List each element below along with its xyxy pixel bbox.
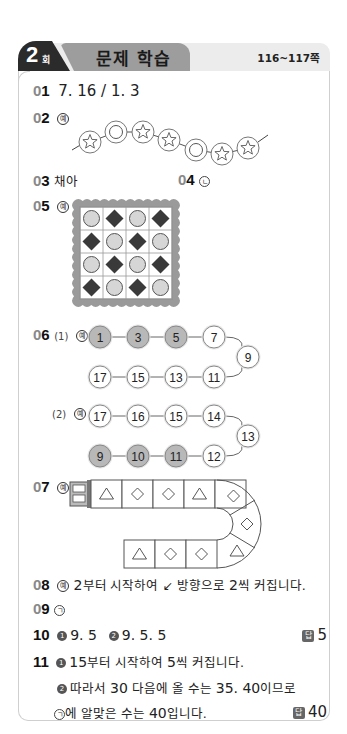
answer-text: 7. 16 / 1. 3 [58, 82, 139, 100]
bead-string-diagram [68, 110, 278, 170]
circle-shape [130, 211, 146, 227]
number-bead: 14 [202, 404, 227, 429]
question-05: 05 예 [33, 197, 69, 214]
svg-text:11: 11 [170, 450, 183, 464]
svg-text:9: 9 [245, 351, 252, 365]
svg-text:13: 13 [241, 430, 255, 444]
svg-text:10: 10 [131, 450, 145, 464]
svg-text:15: 15 [169, 410, 183, 424]
svg-text:5: 5 [173, 331, 180, 345]
question-09: 09 ㄱ [33, 600, 65, 617]
circle-bead [185, 139, 207, 161]
circle-bead [105, 121, 127, 143]
number-bead: 5 [164, 325, 189, 350]
example-mark: 예 [74, 408, 86, 420]
answer-symbol: ㄱ [54, 605, 65, 616]
answer-mark: 답 [293, 707, 305, 719]
question-03: 03 채아 [33, 171, 78, 190]
number-bead: 16 [126, 404, 151, 429]
question-04: 04 ㄴ [178, 171, 210, 188]
step-bullet: 1 [56, 658, 66, 668]
round-suffix: 회 [42, 53, 50, 66]
number-bead: 17 [88, 404, 113, 429]
belt-pattern-diagram [68, 478, 268, 570]
page-title: 문제 학습 [96, 45, 171, 70]
number-bead: 1 [88, 325, 113, 350]
part-label: (2) [52, 409, 66, 420]
circle-shape [84, 257, 100, 273]
answer-text: 채아 [54, 174, 78, 189]
svg-text:16: 16 [131, 410, 145, 424]
svg-text:17: 17 [93, 371, 107, 385]
number-bead: 17 [88, 365, 113, 390]
star-bead [132, 121, 154, 143]
example-mark: 예 [57, 580, 69, 592]
svg-text:3: 3 [135, 331, 142, 345]
question-11-step3: ㄱ에 알맞은 수는 40입니다. [54, 703, 207, 722]
question-number: 07 [33, 478, 50, 495]
number-bead: 15 [164, 404, 189, 429]
question-08: 08 예 2부터 시작하여 ↙ 방향으로 2씩 커집니다. [33, 575, 306, 594]
star-bead [237, 137, 259, 159]
circle-shape [107, 280, 123, 296]
number-bead: 7 [202, 325, 227, 350]
svg-text:7: 7 [211, 331, 218, 345]
question-number: 03 [33, 172, 50, 189]
question-number: 04 [178, 171, 195, 188]
answer-symbol: ㄴ [199, 176, 210, 187]
final-answer-11: 답40 [293, 703, 327, 721]
question-number: 05 [33, 197, 50, 214]
question-10: 10 19. 5 29. 5. 5 [33, 626, 166, 643]
number-bead: 15 [126, 365, 151, 390]
question-number: 02 [33, 109, 50, 126]
question-02: 02 예 [33, 109, 69, 126]
question-number: 10 [33, 626, 50, 643]
number-bead: 11 [202, 365, 227, 390]
answer-mark: 답 [302, 630, 314, 642]
svg-text:14: 14 [207, 410, 221, 424]
circle-shape [153, 280, 169, 296]
question-number: 09 [33, 600, 50, 617]
svg-text:12: 12 [207, 450, 221, 464]
round-badge: 2 회 [18, 41, 74, 71]
question-11: 11 115부터 시작하여 5씩 커집니다. [33, 652, 244, 671]
question-06: 06 (1) 예 [33, 326, 88, 343]
step-bullet: 2 [109, 631, 119, 641]
number-bead: 10 [126, 444, 151, 469]
circle-shape [130, 257, 146, 273]
svg-text:1: 1 [97, 331, 104, 345]
part-label: (1) [54, 331, 68, 342]
question-number: 06 [33, 326, 50, 343]
question-number: 01 [33, 82, 50, 99]
number-bead: 9 [236, 345, 261, 370]
number-bead: 13 [236, 424, 261, 449]
example-mark: 예 [57, 201, 69, 213]
question-number: 11 [33, 653, 49, 670]
number-bead: 13 [164, 365, 189, 390]
question-07: 07 예 [33, 478, 69, 495]
svg-text:15: 15 [131, 371, 145, 385]
page-range: 116~117쪽 [257, 50, 320, 65]
number-bead: 11 [164, 444, 189, 469]
question-06-part2: (2) 예 [52, 405, 86, 421]
step-bullet: 2 [57, 684, 67, 694]
number-chain-1: 1357171513119 [85, 323, 265, 393]
question-11-step2: 2따라서 30 다음에 올 수는 35. 40이므로 [54, 678, 296, 697]
round-number: 2 [26, 42, 38, 68]
star-bead [158, 129, 180, 151]
arrow-icon: ↙ [162, 578, 172, 593]
circle-shape [153, 234, 169, 250]
final-answer-10: 답5 [302, 626, 327, 644]
star-bead [211, 143, 233, 165]
question-01: 01 7. 16 / 1. 3 [33, 82, 140, 100]
stamp-pattern-grid [70, 197, 182, 309]
circle-shape [84, 211, 100, 227]
triangle-shape [230, 545, 244, 556]
number-bead: 3 [126, 325, 151, 350]
circle-shape [107, 234, 123, 250]
svg-text:9: 9 [97, 450, 104, 464]
number-bead: 9 [88, 444, 113, 469]
svg-text:11: 11 [208, 371, 221, 385]
section-header: 2 회 문제 학습 116~117쪽 [18, 41, 330, 71]
number-chain-2: 17161514910111213 [85, 402, 265, 472]
